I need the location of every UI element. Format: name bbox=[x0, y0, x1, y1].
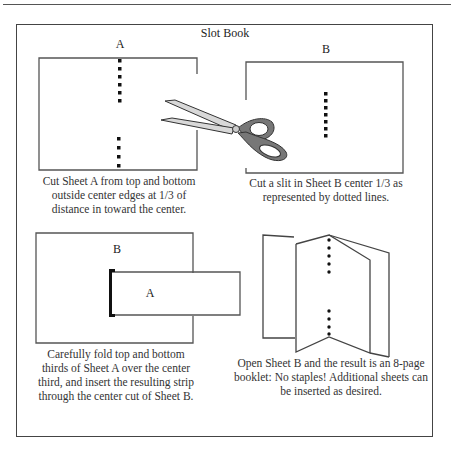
step3-sheet-a-label: A bbox=[140, 286, 160, 300]
caption-line: represented by dotted lines. bbox=[236, 190, 416, 204]
caption-line: Open Sheet B and the result is an 8-page bbox=[228, 356, 434, 370]
step2-caption: Cut a slit in Sheet B center 1/3 as repr… bbox=[236, 176, 416, 204]
caption-line: Carefully fold top and bottom bbox=[18, 347, 214, 361]
step3-sheet-b-label: B bbox=[107, 242, 127, 256]
sheet-b-slit-dots bbox=[324, 92, 328, 138]
caption-line: third, and insert the resulting strip bbox=[18, 375, 214, 389]
caption-line: thirds of Sheet A over the center bbox=[18, 361, 214, 375]
caption-line: booklet: No staples! Additional sheets c… bbox=[228, 370, 434, 384]
step3-caption: Carefully fold top and bottom thirds of … bbox=[18, 347, 214, 403]
sheet-a-cut-dots bbox=[117, 59, 122, 168]
caption-line: distance in toward the center. bbox=[24, 202, 214, 216]
booklet-dots bbox=[327, 238, 330, 335]
caption-line: Cut a slit in Sheet B center 1/3 as bbox=[236, 176, 416, 190]
sheet-b-with-strip-drawing bbox=[36, 233, 240, 343]
sheet-a-drawing bbox=[39, 58, 197, 170]
caption-line: outside center edges at 1/3 of bbox=[24, 188, 214, 202]
slot-mark bbox=[109, 269, 115, 317]
caption-line: be inserted as desired. bbox=[228, 384, 434, 398]
step1-caption: Cut Sheet A from top and bottom outside … bbox=[24, 174, 214, 216]
booklet-drawing bbox=[263, 235, 389, 357]
caption-line: through the center cut of Sheet B. bbox=[18, 389, 214, 403]
caption-line: Cut Sheet A from top and bottom bbox=[24, 174, 214, 188]
scissors-icon bbox=[161, 100, 287, 161]
step4-caption: Open Sheet B and the result is an 8-page… bbox=[228, 356, 434, 398]
